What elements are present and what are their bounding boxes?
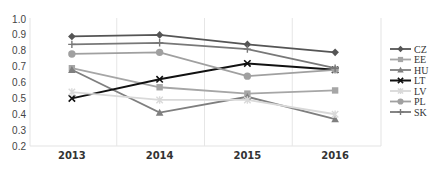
plot-frame [30,18,381,146]
y-tick-label: 0.4 [12,109,26,120]
series-pl [68,49,339,80]
legend-label: SK [414,107,428,118]
plus-marker [397,109,403,115]
legend-label: LT [414,75,425,86]
legend-item-cz: CZ [390,44,427,55]
y-tick-label: 0.5 [12,93,26,104]
diamond-marker [68,33,76,41]
circle-marker [68,50,75,57]
circle-marker [397,98,403,104]
series-lines [68,31,339,122]
y-tick-label: 0.7 [12,61,26,72]
circle-marker [156,49,163,56]
legend-label: LV [414,86,427,97]
y-tick-label: 0.9 [12,29,26,40]
legend-item-lt: LT [390,75,425,86]
x-axis: 2013201420152016 [58,150,349,161]
legend-label: HU [414,65,429,76]
series-hu [68,66,339,122]
series-ee [69,65,339,97]
x-tick-label: 2014 [146,150,174,161]
y-tick-label: 0.3 [12,125,26,136]
plus-marker [244,45,251,52]
y-axis: 1.00.90.80.70.60.50.40.30.2 [12,14,26,152]
line-chart: 1.00.90.80.70.60.50.40.30.2 201320142015… [0,0,439,169]
y-tick-label: 0.8 [12,45,26,56]
y-tick-label: 0.6 [12,77,26,88]
legend-item-hu: HU [390,65,429,76]
legend-label: PL [414,96,426,107]
y-tick-label: 0.2 [12,141,26,152]
legend: CZEEHULTLVPLSK [390,44,429,118]
series-line [72,52,335,76]
x-tick-label: 2016 [321,150,349,161]
plus-marker [156,39,163,46]
legend-label: CZ [414,44,427,55]
x-tick-label: 2013 [58,150,86,161]
series-line [72,92,335,114]
series-lv [69,88,339,118]
series-line [72,63,335,98]
square-marker [398,57,403,62]
legend-item-pl: PL [390,96,426,107]
circle-marker [244,72,251,79]
x-tick-label: 2015 [233,150,261,161]
square-marker [332,87,338,93]
legend-item-sk: SK [390,107,428,118]
legend-item-ee: EE [390,54,426,65]
legend-item-lv: LV [390,86,427,97]
diamond-marker [331,49,339,57]
diamond-marker [156,31,164,39]
plus-marker [68,41,75,48]
legend-label: EE [414,54,426,65]
diamond-marker [397,46,403,52]
square-marker [156,84,162,90]
y-tick-label: 1.0 [12,14,26,25]
